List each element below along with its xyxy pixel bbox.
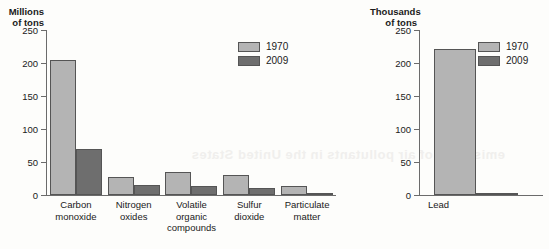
bar-1970 [223,175,249,195]
y-tick-label: 50 [27,157,38,168]
y-tick-label: 150 [395,91,411,102]
legend-swatch-2009 [238,56,260,66]
bar-1970 [108,177,134,195]
legend-item: 2009 [478,55,528,66]
y-tick [414,96,419,97]
bar-group [163,172,221,195]
legend-item: 2009 [238,55,288,66]
category-label: Nitrogen oxides [105,199,163,234]
y-tick [41,63,46,64]
bar-group [220,175,278,195]
legend-swatch-1970 [238,42,260,52]
y-tick [414,195,419,196]
y-tick-label: 0 [406,190,411,201]
y-tick [41,30,46,31]
y-tick-label: 150 [22,91,38,102]
chart-millions-of-tons: Millions of tons 050100150200250 Carbon … [0,0,345,249]
legend-label: 2009 [506,55,528,66]
legend-label: 1970 [266,41,288,52]
legend-item: 1970 [238,41,288,52]
bar-1970 [281,186,307,195]
bar-groups [47,30,336,195]
plot-area: 050100150200250 [46,30,336,196]
bar-1970 [434,49,476,195]
bar-group [278,186,336,195]
y-tick-label: 200 [22,58,38,69]
y-tick [41,129,46,130]
category-label: Particulate matter [278,199,336,234]
category-label: Sulfur dioxide [220,199,278,234]
y-tick [414,30,419,31]
y-tick-label: 250 [22,25,38,36]
bar-2009 [476,193,518,195]
x-axis-category-labels: Carbon monoxideNitrogen oxidesVolatile o… [47,199,336,234]
legend-label: 2009 [266,55,288,66]
category-label: Volatile organic compounds [163,199,221,234]
bar-2009 [191,186,217,195]
y-tick-label: 250 [395,25,411,36]
chart-thousands-of-tons: Thousands of tons 050100150200250 Lead 1… [370,0,549,249]
bar-2009 [76,149,102,195]
x-axis-line [46,195,336,196]
x-axis-line [419,195,543,196]
bar-2009 [249,188,275,195]
bar-group [47,60,105,195]
y-tick [41,195,46,196]
bar-1970 [50,60,76,195]
legend-label: 1970 [506,41,528,52]
x-axis-category-labels: Lead [420,199,543,211]
bar-2009 [307,193,333,195]
y-tick-label: 200 [395,58,411,69]
category-label: Lead [420,199,543,211]
y-tick-label: 50 [400,157,411,168]
legend-swatch-2009 [478,56,500,66]
legend: 19702009 [478,41,528,66]
bar-2009 [134,185,160,195]
chart-page: emissions of air pollutants in the Unite… [0,0,549,249]
legend-item: 1970 [478,41,528,52]
y-tick-label: 0 [33,190,38,201]
y-tick [414,129,419,130]
bar-1970 [165,172,191,195]
bar-group [105,177,163,195]
legend-swatch-1970 [478,42,500,52]
category-label: Carbon monoxide [47,199,105,234]
legend: 19702009 [238,41,288,66]
y-tick-label: 100 [22,124,38,135]
y-tick [414,162,419,163]
y-tick [41,162,46,163]
bar-group [420,49,543,195]
y-tick [41,96,46,97]
y-tick-label: 100 [395,124,411,135]
y-tick [414,63,419,64]
